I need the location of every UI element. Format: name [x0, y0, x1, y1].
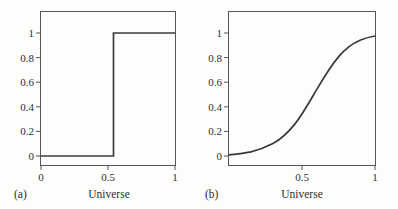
- plot-a-x-ticks: [41, 166, 175, 171]
- plot-b-ytick-0: 0: [193, 151, 222, 162]
- plot-a-ytick-0.8: 0.8: [4, 53, 34, 64]
- plot-b-x-ticks: [302, 166, 375, 171]
- panel-b-caption: (b): [205, 189, 218, 201]
- plot-a-ytick-1: 1: [4, 28, 34, 39]
- step-function-curve: [41, 33, 175, 156]
- panel-a-caption: (a): [14, 189, 27, 201]
- plot-panel-b: 0 0.2 0.4 0.6 0.8 1 0.5 1 (b) Universe: [199, 0, 398, 209]
- plot-a-ytick-0.4: 0.4: [4, 102, 34, 113]
- plot-a-frame: [41, 12, 176, 166]
- plot-b-xtick-0.5: 0.5: [287, 172, 317, 183]
- plot-a-xtick-1: 1: [161, 172, 189, 183]
- plot-b-y-ticks: [224, 33, 229, 156]
- plot-a-ytick-0.6: 0.6: [4, 77, 34, 88]
- plot-b-ytick-0.4: 0.4: [193, 102, 222, 113]
- plot-b-frame: [229, 12, 376, 166]
- plot-a-ytick-0.2: 0.2: [4, 126, 34, 137]
- plot-a-xtick-0.5: 0.5: [93, 172, 123, 183]
- plot-a-ytick-0: 0: [4, 151, 34, 162]
- plot-b-xtick-1: 1: [361, 172, 389, 183]
- plot-panel-a: 0 0.2 0.4 0.6 0.8 1 0 0.5 1 (a) Universe: [0, 0, 199, 209]
- plot-a-xaxis-title: Universe: [66, 189, 152, 201]
- plot-b-ytick-0.2: 0.2: [193, 126, 222, 137]
- plot-b-ytick-1: 1: [193, 28, 222, 39]
- plot-a-y-ticks: [36, 33, 41, 156]
- plot-a-xtick-0: 0: [27, 172, 55, 183]
- plot-b-ytick-0.8: 0.8: [193, 53, 222, 64]
- plot-b-xaxis-title: Universe: [259, 189, 345, 201]
- plot-b-ytick-0.6: 0.6: [193, 77, 222, 88]
- figure-container: 0 0.2 0.4 0.6 0.8 1 0 0.5 1 (a) Universe: [0, 0, 398, 209]
- sigmoid-function-curve: [229, 36, 375, 155]
